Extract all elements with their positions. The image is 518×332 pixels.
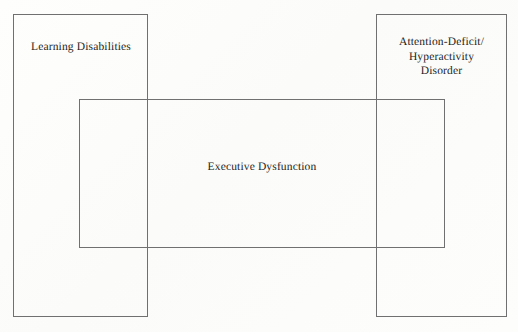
set-label-adhd: Attention-Deficit/ Hyperactivity Disorde… (378, 35, 505, 79)
set-label-learning-disabilities: Learning Disabilities (18, 40, 144, 55)
venn-diagram-figure: Learning Disabilities Attention-Deficit/… (0, 0, 518, 332)
set-label-executive-dysfunction: Executive Dysfunction (80, 160, 444, 175)
